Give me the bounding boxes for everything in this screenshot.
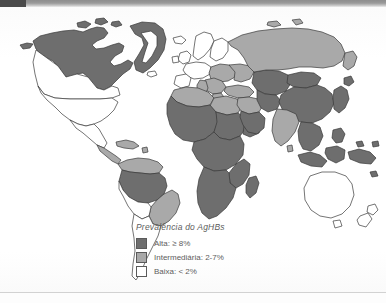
legend-swatch-intermediaria <box>136 252 147 263</box>
hbsag-prevalence-world-map-figure: Prevalência do AgHBs Alta: ≥ 8% Intermed… <box>0 0 386 303</box>
region-borneo-sulawesi <box>325 146 345 163</box>
region-canadian-arctic-islands <box>77 21 91 28</box>
region-pacific-island-c <box>370 171 378 177</box>
legend-label-baixa: Baixa: < 2% <box>154 267 197 276</box>
region-korea-japan <box>333 86 349 113</box>
region-pacific-island-a <box>356 141 364 147</box>
region-british-isles <box>178 51 191 64</box>
region-southeast-asia-mainland <box>298 122 323 151</box>
region-turkey-caucasus <box>224 85 254 98</box>
legend-swatch-alta <box>136 238 147 249</box>
region-caribbean-lesser-antilles <box>142 147 148 153</box>
region-new-zealand-south <box>357 213 372 227</box>
region-madagascar <box>246 176 259 198</box>
region-tasmania <box>333 220 342 228</box>
region-caribbean-greater-antilles <box>116 140 139 149</box>
region-central-america <box>97 145 121 164</box>
region-sri-lanka <box>287 145 293 152</box>
region-sumatra-java <box>298 152 327 167</box>
region-arctic-island-c <box>111 21 122 27</box>
map-legend: Prevalência do AgHBs Alta: ≥ 8% Intermed… <box>126 222 276 280</box>
region-australia <box>304 172 354 218</box>
region-aleutian-islands <box>20 43 33 49</box>
legend-swatch-baixa <box>136 266 147 277</box>
region-ireland <box>172 56 179 63</box>
region-japan-north <box>344 76 354 86</box>
legend-item-intermediaria: Intermediária: 2-7% <box>136 252 276 263</box>
region-greenland-islet <box>147 71 157 77</box>
region-india <box>272 109 299 146</box>
region-papua-new-guinea <box>348 149 376 164</box>
legend-label-intermediaria: Intermediária: 2-7% <box>154 253 224 262</box>
region-philippines <box>332 128 345 143</box>
region-arctic-island-severnaya <box>292 19 303 25</box>
region-kamchatka <box>343 51 357 70</box>
legend-title: Prevalência do AgHBs <box>136 222 276 232</box>
region-arctic-island-b <box>95 18 108 25</box>
legend-item-baixa: Baixa: < 2% <box>136 266 276 277</box>
region-pacific-island-b <box>372 141 379 147</box>
legend-label-alta: Alta: ≥ 8% <box>154 239 190 248</box>
region-iberia <box>174 74 191 88</box>
region-arctic-russia-islands <box>267 21 281 27</box>
region-iceland <box>173 36 186 44</box>
legend-item-alta: Alta: ≥ 8% <box>136 238 276 249</box>
